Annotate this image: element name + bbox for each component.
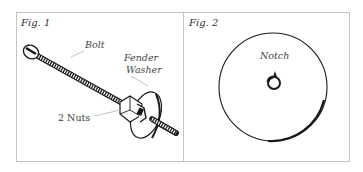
figure-1-panel: Fig. 1 Bolt Fend [16, 12, 183, 162]
figure-2-panel: Fig. 2 Notch [184, 12, 350, 162]
fender-washer-callout-line1: Fender [124, 52, 158, 63]
notch-callout: Notch [260, 50, 289, 61]
bolt-assembly-illustration [16, 12, 183, 162]
bolt-callout: Bolt [85, 39, 105, 50]
nuts-callout: 2 Nuts [58, 112, 90, 123]
fender-washer-callout-line2: Washer [126, 64, 162, 75]
washer-top-view-illustration [184, 12, 350, 162]
